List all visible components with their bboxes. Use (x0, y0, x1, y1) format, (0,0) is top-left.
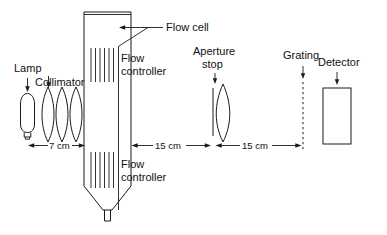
detector-icon (323, 88, 351, 144)
dimension-15cm-left-label: 15 cm (155, 140, 181, 151)
flow-controller-bottom-label-line1: Flow (121, 158, 144, 170)
flow-controller-bottom-label-line2: controller (121, 171, 167, 183)
grating-label: Grating (283, 49, 319, 61)
collimator-lens-2-icon (56, 87, 68, 142)
diagram-canvas: Lamp Collimator (0, 0, 387, 235)
lamp-pointer-arrow (25, 78, 30, 92)
lamp-bulb-icon (21, 94, 35, 133)
aperture-stop-group (213, 84, 230, 142)
dimension-7cm-label: 7 cm (49, 140, 70, 151)
aperture-stop-label-line1: Aperture (193, 45, 235, 57)
detector-label: Detector (318, 56, 360, 68)
lamp-base-icon (24, 133, 31, 138)
flow-cell-outlet-icon (105, 210, 111, 221)
aperture-stop-lens-icon (216, 84, 230, 142)
flow-cell-label: Flow cell (166, 21, 209, 33)
collimator-group (42, 87, 82, 142)
aperture-stop-pointer-arrow (213, 73, 217, 84)
dimension-15cm-left: 15 cm (132, 140, 212, 151)
flow-cell-leader (119, 25, 163, 46)
aperture-stop-label-line2: stop (202, 58, 223, 70)
grating-pointer-arrow (301, 66, 305, 79)
lamp-group (21, 94, 35, 140)
flow-cell-packing-upper (91, 48, 114, 82)
flow-cell-packing-lower (91, 152, 114, 188)
dimension-15cm-right-label: 15 cm (242, 140, 268, 151)
detector-group (323, 88, 351, 144)
detector-pointer-arrow (335, 72, 339, 85)
dimension-15cm-right: 15 cm (216, 140, 302, 151)
collimator-lens-1-icon (42, 87, 54, 142)
flow-controller-top-label-line2: controller (121, 65, 167, 77)
optical-bench-diagram: Lamp Collimator (0, 0, 387, 235)
collimator-label: Collimator (35, 76, 85, 88)
flow-controller-top-label-line1: Flow (121, 52, 144, 64)
lamp-label: Lamp (14, 62, 42, 74)
collimator-lens-3-icon (70, 87, 82, 142)
